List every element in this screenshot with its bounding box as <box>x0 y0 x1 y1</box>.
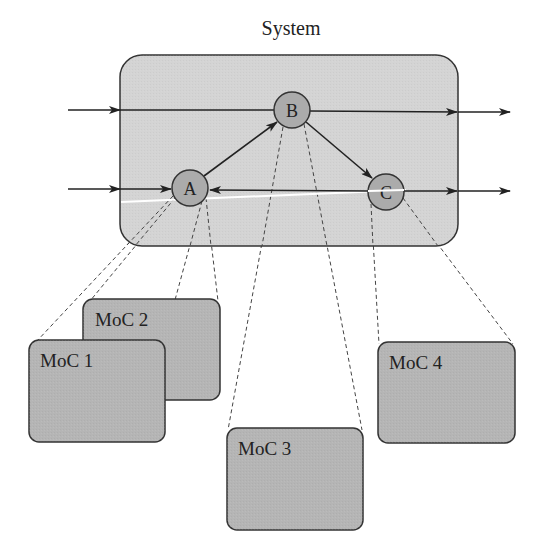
node-c-label: C <box>380 183 392 203</box>
moc-1-label: MoC 1 <box>40 350 93 371</box>
node-b: B <box>274 92 310 128</box>
moc-box-4: MoC 4 <box>378 342 515 443</box>
system-title: System <box>262 17 321 40</box>
moc-3-label: MoC 3 <box>238 438 291 459</box>
system-box <box>120 55 458 246</box>
node-a: A <box>172 170 208 206</box>
moc-box-3: MoC 3 <box>227 428 363 530</box>
moc-4-label: MoC 4 <box>389 352 443 373</box>
node-c: C <box>368 174 404 210</box>
moc-box-1: MoC 1 <box>29 340 165 442</box>
arrow-c-to-a <box>210 190 368 191</box>
system-moc-diagram: System <box>0 0 543 559</box>
node-b-label: B <box>286 101 298 121</box>
arrow-pass-through-right <box>310 111 457 112</box>
highlight-line-over-c <box>368 190 404 191</box>
node-a-label: A <box>184 179 197 199</box>
moc-2-label: MoC 2 <box>95 309 148 330</box>
